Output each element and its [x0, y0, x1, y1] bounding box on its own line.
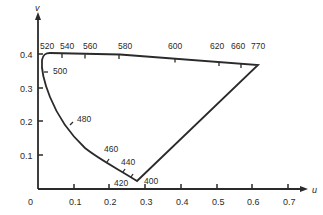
wl-label-520: 520	[40, 41, 54, 51]
wl-label-540: 540	[60, 41, 74, 51]
wavelength-ticks	[44, 54, 241, 177]
x-tick-label: 0.7	[283, 197, 296, 207]
wl-label-660: 660	[231, 41, 245, 51]
y-axis-arrow-icon	[35, 12, 41, 20]
wl-label-440: 440	[121, 157, 135, 167]
wl-label-560: 560	[83, 41, 97, 51]
wl-label-600: 600	[168, 41, 182, 51]
wl-label-420: 420	[114, 178, 128, 188]
x-tick-label: 0.5	[212, 197, 225, 207]
wl-label-580: 580	[118, 41, 132, 51]
y-tick-label: 0.4	[20, 50, 33, 60]
y-tick-label: 0.2	[20, 117, 33, 127]
origin-label: 0	[28, 197, 33, 207]
x-axis-title: u	[312, 185, 317, 195]
wl-label-620: 620	[210, 41, 224, 51]
x-tick-label: 0.3	[140, 197, 153, 207]
x-axis-arrow-icon	[300, 186, 308, 192]
wl-label-460: 460	[104, 144, 118, 154]
y-axis-title: v	[35, 3, 40, 13]
x-tick-label: 0.6	[247, 197, 260, 207]
y-tick-label: 0.1	[20, 151, 33, 161]
wl-label-480: 480	[77, 114, 91, 124]
wl-label-500: 500	[53, 66, 67, 76]
x-tick-label: 0.1	[69, 197, 82, 207]
wl-label-770: 770	[251, 41, 265, 51]
y-tick-label: 0.3	[20, 84, 33, 94]
x-tick-label: 0.2	[104, 197, 117, 207]
spectrum-locus-curve	[42, 53, 258, 181]
x-tick-label: 0.4	[176, 197, 189, 207]
chromaticity-chart: 0 0.1 0.2 0.3 0.4 0.5 0.6 0.7 0.1 0.2 0.…	[0, 0, 323, 215]
wl-label-400: 400	[144, 176, 158, 186]
